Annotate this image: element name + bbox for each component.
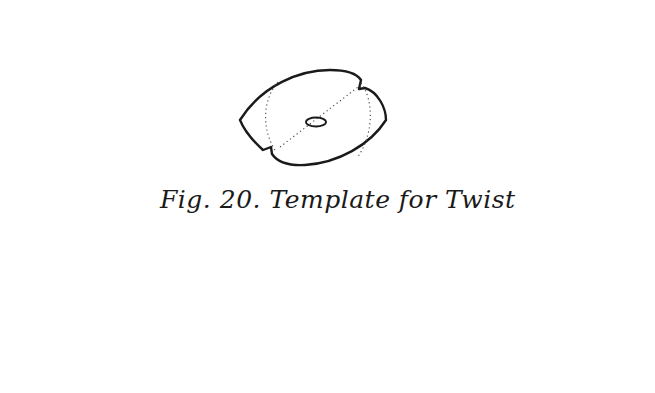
figure-caption: Fig. 20. Template for Twist bbox=[160, 185, 516, 214]
twist-template bbox=[240, 70, 386, 165]
template-center-hole bbox=[306, 118, 326, 127]
